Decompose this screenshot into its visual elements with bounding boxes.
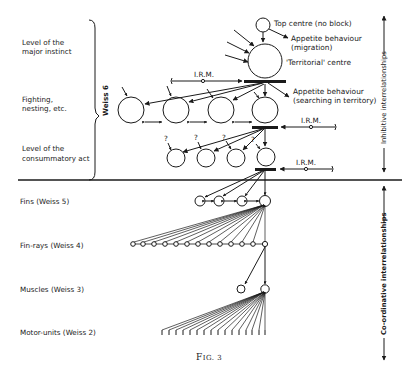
- territorial-centre-node: [248, 44, 282, 78]
- label-appetite-searching-2: (searching in territory): [293, 96, 376, 105]
- block-consummatory: [255, 168, 276, 171]
- consummatory-node-1: [167, 149, 185, 167]
- label-motor-units: Motor-units (Weiss 2): [20, 328, 96, 337]
- caption-small: IG. 3: [203, 354, 223, 362]
- consummatory-node-2: [197, 149, 215, 167]
- label-fin-rays: Fin-rays (Weiss 4): [20, 241, 83, 250]
- fin-node-2: [214, 196, 224, 206]
- label-consummatory-1: Level of the: [22, 144, 64, 153]
- fin-node-1: [195, 196, 205, 206]
- figure-caption: FIG. 3: [196, 352, 222, 362]
- block-territorial: [244, 80, 286, 83]
- fin-node-3: [237, 196, 247, 206]
- label-fighting-1: Fighting,: [22, 95, 53, 104]
- label-fins: Fins (Weiss 5): [20, 197, 69, 206]
- label-appetite-searching-1: Appetite behaviour: [293, 87, 364, 96]
- motor-unit-ticks: [162, 330, 265, 335]
- question-mark-3: ?: [222, 133, 226, 142]
- label-major-instinct-1: Level of the: [22, 38, 64, 47]
- block-fighting: [252, 126, 278, 129]
- muscle-node-2: [261, 285, 269, 293]
- fighting-node-3: [208, 97, 234, 123]
- fin-ray-connections: [134, 205, 265, 242]
- fighting-node-1: [118, 97, 144, 123]
- question-mark-1: ?: [164, 134, 168, 143]
- motor-unit-connections: [162, 292, 265, 330]
- hierarchy-diagram: [0, 0, 418, 377]
- label-irm-3: I.R.M.: [296, 158, 316, 167]
- fighting-node-4: [252, 97, 278, 123]
- consummatory-node-4: [257, 148, 275, 166]
- question-mark-2: ?: [194, 133, 198, 142]
- label-appetite-migration-2: (migration): [291, 43, 332, 52]
- muscle-node-1: [237, 285, 245, 293]
- fighting-node-2: [163, 97, 189, 123]
- fin-node-4: [260, 196, 271, 207]
- label-appetite-migration-1: Appetite behaviour: [291, 34, 362, 43]
- weiss-6-brace: [89, 20, 99, 180]
- caption-main: F: [196, 352, 203, 362]
- label-muscles: Muscles (Weiss 3): [20, 285, 84, 294]
- label-territorial-centre: 'Territorial' centre: [286, 58, 351, 67]
- label-irm-1: I.R.M.: [194, 70, 214, 79]
- label-consummatory-2: consummatory act: [22, 154, 90, 163]
- label-fighting-2: nesting, etc.: [22, 104, 67, 113]
- label-major-instinct-2: major instinct: [22, 47, 71, 56]
- label-top-centre: Top centre (no block): [274, 19, 352, 28]
- top-centre-node: [256, 18, 270, 32]
- label-inhibitive: Inhibitive interrelationships: [380, 51, 388, 144]
- consummatory-node-3: [227, 149, 245, 167]
- question-mark-4: ?: [251, 135, 255, 144]
- brace-label-weiss-6: Weiss 6: [101, 85, 110, 116]
- label-coordinative: Co-ordinative interrelationships: [380, 212, 388, 335]
- label-irm-2: I.R.M.: [301, 116, 321, 125]
